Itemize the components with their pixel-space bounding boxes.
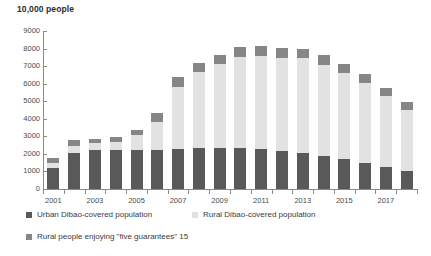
bar-segment-rural <box>380 96 392 167</box>
legend-item[interactable]: Rural people enjoying "five guarantees" … <box>26 232 188 241</box>
bar-segment-urban <box>151 150 163 189</box>
bar <box>318 55 330 189</box>
bar <box>131 130 143 189</box>
y-axis-tick-label-text: 0 <box>2 184 40 193</box>
bar-segment-five-guarantees <box>151 113 163 122</box>
y-axis-tick-label: 8000 <box>0 44 40 54</box>
x-axis-tick <box>355 190 356 194</box>
bar <box>193 63 205 189</box>
x-axis-tick <box>292 190 293 194</box>
bar-segment-urban <box>338 159 350 189</box>
bar <box>401 102 413 189</box>
stacked-bar-chart: 10,000 people 01000200030004000500060007… <box>0 0 431 256</box>
bar-segment-five-guarantees <box>255 46 267 56</box>
x-axis-tick-label: 2005 <box>117 196 157 205</box>
y-axis-tick-label: 7000 <box>0 61 40 71</box>
bar-segment-five-guarantees <box>380 88 392 96</box>
x-axis-tick <box>334 190 335 194</box>
x-axis-tick-label: 2015 <box>324 196 364 205</box>
legend-swatch-icon <box>26 212 32 218</box>
y-axis-tick-label: 5000 <box>0 96 40 106</box>
x-axis-tick <box>272 190 273 194</box>
y-axis-tick-label-text: 7000 <box>2 61 40 70</box>
x-axis-tick <box>230 190 231 194</box>
x-axis-tick <box>396 190 397 194</box>
bar-segment-five-guarantees <box>318 55 330 64</box>
bar-segment-rural <box>318 65 330 156</box>
bar <box>214 55 226 189</box>
legend-label: Rural Dibao-covered population <box>203 210 316 219</box>
bar-segment-five-guarantees <box>234 47 246 57</box>
bar <box>234 47 246 189</box>
x-axis-tick-label: 2007 <box>158 196 198 205</box>
y-axis-tick-label-text: 4000 <box>2 114 40 123</box>
bar <box>380 88 392 189</box>
x-axis-tick <box>105 190 106 194</box>
bar-segment-urban <box>401 171 413 189</box>
y-axis-tick-label-text: 5000 <box>2 96 40 105</box>
legend-label: Rural people enjoying "five guarantees" … <box>37 232 188 241</box>
x-axis-tick <box>126 190 127 194</box>
x-axis-tick <box>417 190 418 194</box>
bar-segment-five-guarantees <box>193 63 205 73</box>
x-axis-tick <box>251 190 252 194</box>
plot-area <box>43 31 417 189</box>
legend-label: Urban Dibao-covered population <box>37 210 152 219</box>
bar-segment-rural <box>234 57 246 149</box>
bar <box>338 64 350 189</box>
x-axis-tick-label: 2003 <box>75 196 115 205</box>
bar-segment-five-guarantees <box>297 49 309 58</box>
chart-legend: Urban Dibao-covered populationRural Diba… <box>0 208 431 252</box>
bar-segment-urban <box>214 148 226 189</box>
bar-segment-five-guarantees <box>276 48 288 58</box>
bar-segment-urban <box>68 153 80 189</box>
bar-segment-urban <box>297 153 309 189</box>
bar-segment-rural <box>131 135 143 149</box>
bar <box>255 46 267 189</box>
bar-segment-five-guarantees <box>172 77 184 86</box>
bar-segment-rural <box>151 122 163 150</box>
bar-segment-urban <box>131 150 143 189</box>
x-axis-tick-label: 2009 <box>200 196 240 205</box>
bar-segment-urban <box>276 151 288 189</box>
bar-segment-urban <box>318 156 330 189</box>
legend-swatch-icon <box>192 212 198 218</box>
y-axis-tick-label-text: 8000 <box>2 44 40 53</box>
bar <box>151 113 163 189</box>
x-axis-tick <box>43 190 44 194</box>
y-axis-tick-label: 1000 <box>0 166 40 176</box>
bar-segment-rural <box>214 64 226 148</box>
y-axis-tick-label: 4000 <box>0 114 40 124</box>
bar <box>359 74 371 189</box>
bar-segment-urban <box>172 149 184 189</box>
x-axis-tick <box>375 190 376 194</box>
x-axis-tick-label: 2017 <box>366 196 406 205</box>
x-axis-tick <box>209 190 210 194</box>
bar <box>172 77 184 189</box>
y-axis-tick-label: 0 <box>0 184 40 194</box>
bar-segment-rural <box>68 146 80 153</box>
y-axis-tick-label-text: 2000 <box>2 149 40 158</box>
bar-segment-urban <box>47 168 59 189</box>
legend-item[interactable]: Rural Dibao-covered population <box>192 210 316 219</box>
bar-segment-five-guarantees <box>214 55 226 65</box>
y-axis-tick-label-text: 3000 <box>2 131 40 140</box>
bar-segment-rural <box>193 72 205 148</box>
bar-segment-urban <box>193 148 205 189</box>
x-axis-tick <box>147 190 148 194</box>
x-axis-tick-label: 2001 <box>33 196 73 205</box>
x-axis-tick <box>168 190 169 194</box>
y-axis-tick-label-text: 1000 <box>2 166 40 175</box>
bar-segment-rural <box>338 73 350 159</box>
y-axis-tick-label: 3000 <box>0 131 40 141</box>
y-axis-tick-label-text: 9000 <box>2 26 40 35</box>
bar <box>276 48 288 189</box>
bar-segment-rural <box>276 58 288 152</box>
bar-segment-five-guarantees <box>338 64 350 73</box>
bar-segment-urban <box>255 149 267 189</box>
bar-segment-urban <box>380 167 392 189</box>
bar-segment-rural <box>110 142 122 151</box>
bar-segment-rural <box>401 110 413 172</box>
legend-item[interactable]: Urban Dibao-covered population <box>26 210 152 219</box>
x-axis-tick <box>188 190 189 194</box>
